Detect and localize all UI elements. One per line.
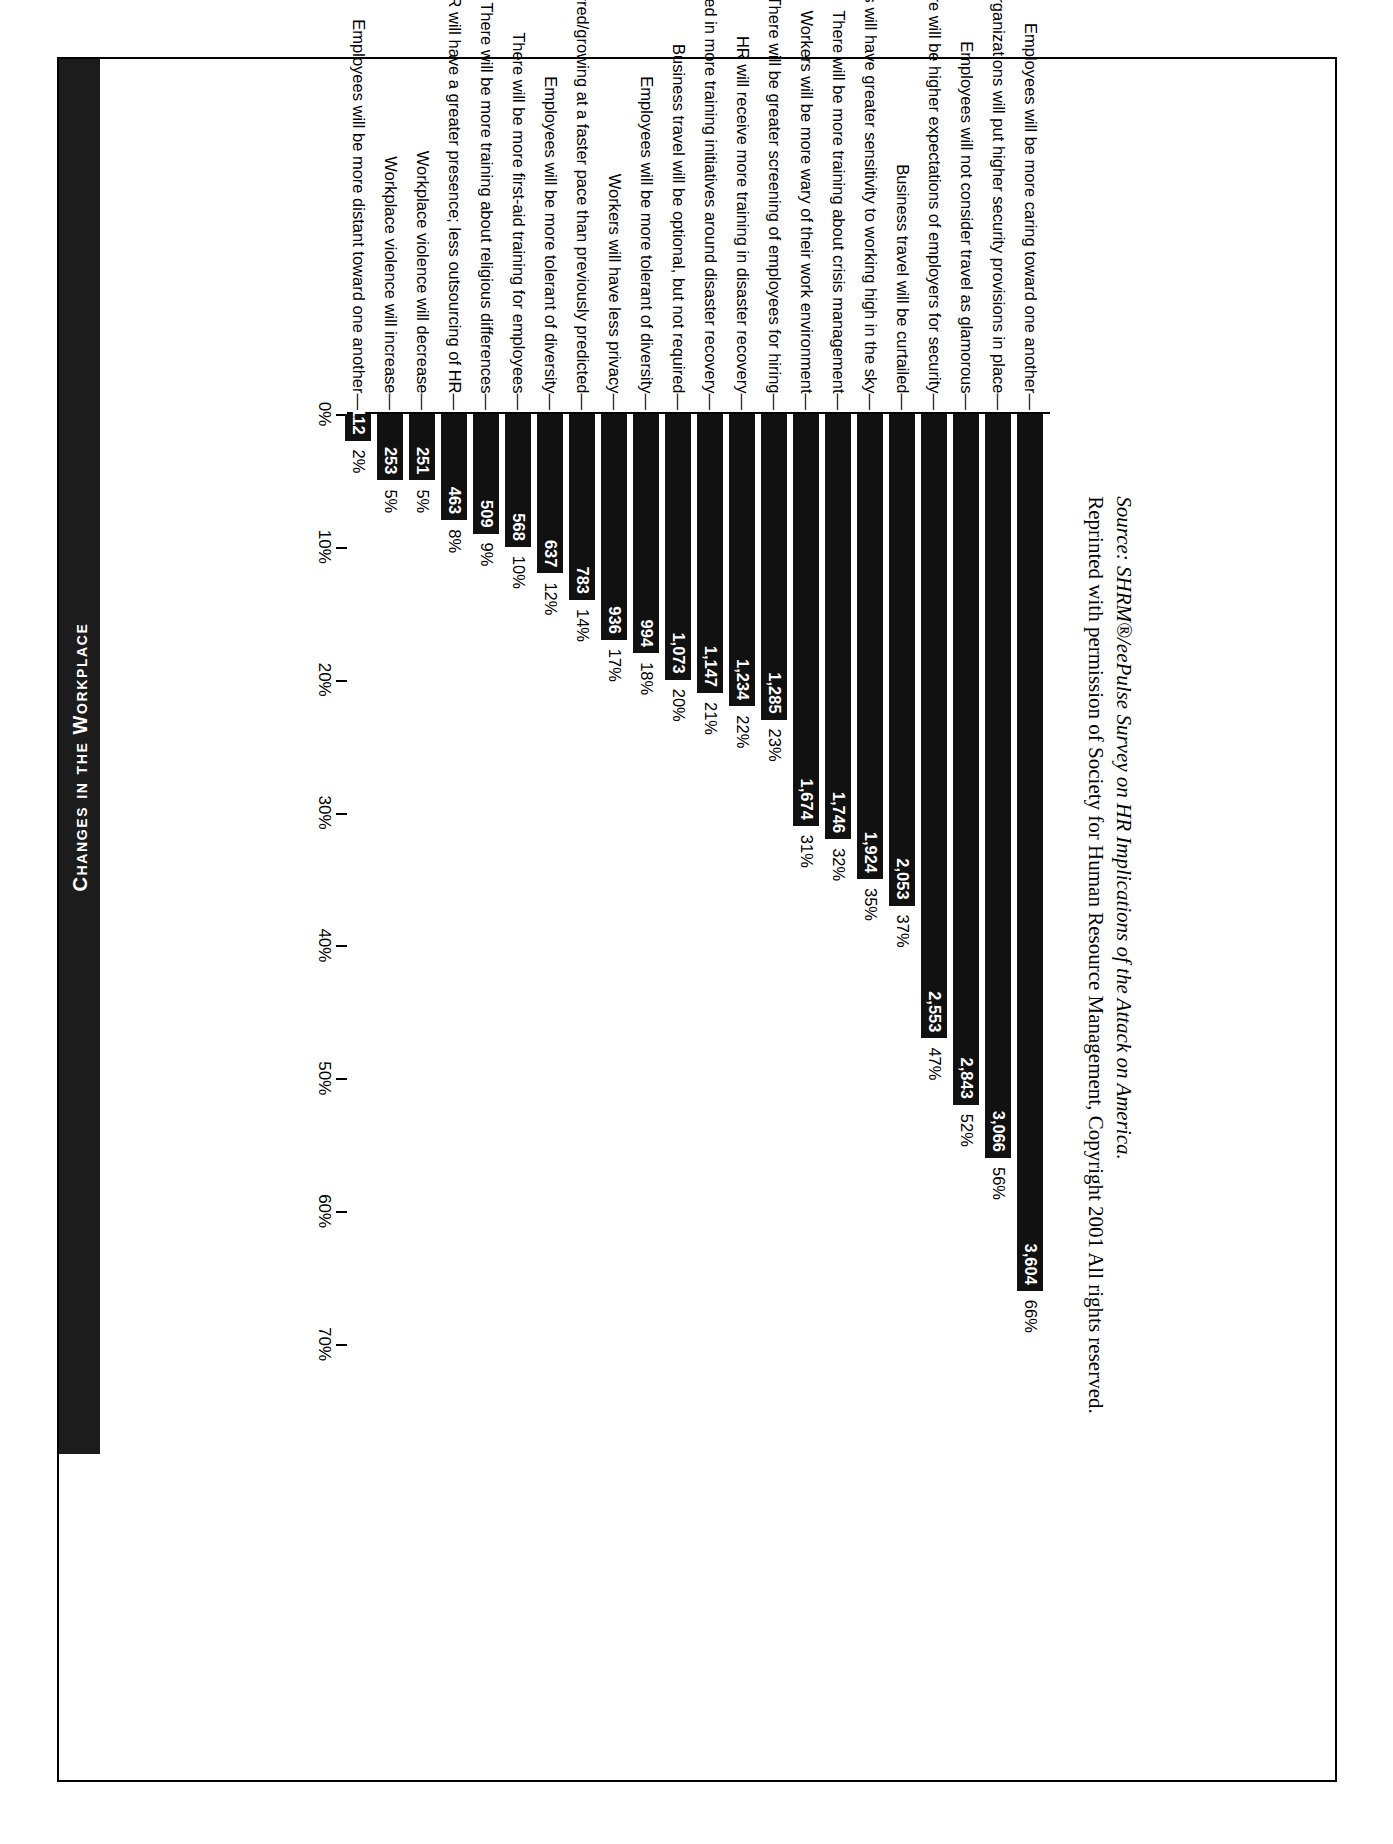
bar-count-label: 637 — [541, 540, 560, 568]
category-label: There will be more first-aid training fo… — [509, 32, 528, 410]
bar-percent-label: 52% — [957, 1114, 976, 1147]
category-label: Workers will have greater sensitivity to… — [861, 0, 880, 410]
axis-tick-label: 10% — [314, 530, 334, 564]
bar: 1,924 — [857, 414, 883, 879]
bar-percent-label: 20% — [669, 689, 688, 722]
bar-count-label: 2,553 — [925, 991, 944, 1032]
bar-percent-label: 21% — [701, 702, 720, 735]
bar-percent-label: 66% — [1021, 1300, 1040, 1333]
category-label: There will be greater screening of emplo… — [765, 0, 784, 410]
bar: 2,843 — [953, 414, 979, 1105]
bar-row: Workers will have greater sensitivity to… — [853, 60, 887, 1455]
category-label: There will be higher expectations of emp… — [925, 0, 944, 410]
category-label: Organizations will put higher security p… — [989, 0, 1008, 410]
bar-percent-label: 2% — [349, 450, 368, 474]
bar-percent-label: 18% — [637, 662, 656, 695]
category-label: Employees will not consider travel as gl… — [957, 41, 976, 410]
bar-row: Workplace violence will decrease—2515% — [405, 60, 439, 1455]
bar-row: Leaders will be involved in more trainin… — [693, 60, 727, 1455]
category-label: Leaders will be involved in more trainin… — [701, 0, 720, 410]
bar: 509 — [473, 414, 499, 534]
bar-row: HR will receive more training in disaste… — [725, 60, 759, 1455]
bar-count-label: 3,066 — [989, 1111, 1008, 1152]
chart-title-bar: Changes in the Workplace — [59, 59, 100, 1454]
bar: 1,674 — [793, 414, 819, 826]
category-label: Employees will be more distant toward on… — [349, 19, 368, 410]
axis-tick-label: 20% — [314, 663, 334, 697]
bar-chart: 0%10%20%30%40%50%60%70% Employees will b… — [105, 60, 1050, 1455]
source-note: Source: SHRM®/eePulse Survey on HR Impli… — [1090, 455, 1130, 1455]
axis-tick-label: 30% — [314, 796, 334, 830]
category-label: Telecommuting preferred/growing at a fas… — [573, 0, 592, 410]
bar-percent-label: 37% — [893, 915, 912, 948]
axis-tick-label: 0% — [314, 402, 334, 427]
category-label: Workers will be more wary of their work … — [797, 11, 816, 410]
bar-row: There will be higher expectations of emp… — [917, 60, 951, 1455]
bar-row: Employees will not consider travel as gl… — [949, 60, 983, 1455]
bar-percent-label: 8% — [445, 529, 464, 553]
category-label: Business travel will be curtailed— — [893, 164, 912, 410]
bar-count-label: 1,674 — [797, 779, 816, 820]
bar-row: There will be greater screening of emplo… — [757, 60, 791, 1455]
bar-percent-label: 23% — [765, 729, 784, 762]
bar: 1,147 — [697, 414, 723, 693]
bar-count-label: 3,604 — [1021, 1244, 1040, 1285]
bar: 2,553 — [921, 414, 947, 1038]
bar-row: There will be more first-aid training fo… — [501, 60, 535, 1455]
axis-tick-label: 70% — [314, 1327, 334, 1361]
bar: 637 — [537, 414, 563, 573]
bar: 1,073 — [665, 414, 691, 680]
bar-row: Business travel will be optional, but no… — [661, 60, 695, 1455]
bar-percent-label: 47% — [925, 1047, 944, 1080]
bar: 253 — [377, 414, 403, 480]
bar-percent-label: 22% — [733, 715, 752, 748]
bar-count-label: 1,746 — [829, 792, 848, 833]
source-line-1: Source: SHRM®/eePulse Survey on HR Impli… — [1110, 496, 1138, 1413]
bar-percent-label: 31% — [797, 835, 816, 868]
category-label: Workplace violence will increase— — [381, 156, 400, 410]
bar-count-label: 2,053 — [893, 858, 912, 899]
bar-row: There will be more training about crisis… — [821, 60, 855, 1455]
chart-plot-area: 0%10%20%30%40%50%60%70% Employees will b… — [105, 60, 1050, 1455]
bar-count-label: 994 — [637, 620, 656, 648]
bar-row: Workplace violence will increase—2535% — [373, 60, 407, 1455]
bar-percent-label: 10% — [509, 556, 528, 589]
bar-percent-label: 5% — [381, 489, 400, 513]
bar-row: Workers will be more wary of their work … — [789, 60, 823, 1455]
bar-count-label: 783 — [573, 566, 592, 594]
bar-percent-label: 32% — [829, 848, 848, 881]
bar: 3,066 — [985, 414, 1011, 1158]
bar-count-label: 1,924 — [861, 832, 880, 873]
axis-tick-label: 60% — [314, 1194, 334, 1228]
category-label: Workers will have less privacy— — [605, 174, 624, 410]
bar-count-label: 568 — [509, 513, 528, 541]
bar-count-label: 253 — [381, 447, 400, 475]
bar-row: Organizations will put higher security p… — [981, 60, 1015, 1455]
bar: 994 — [633, 414, 659, 653]
category-label: There will be more training about crisis… — [829, 10, 848, 410]
bar-count-label: 509 — [477, 500, 496, 528]
bar-row: HR will have a greater presence; less ou… — [437, 60, 471, 1455]
bar-percent-label: 35% — [861, 888, 880, 921]
bar: 2,053 — [889, 414, 915, 906]
bar: 568 — [505, 414, 531, 547]
category-label: Business travel will be optional, but no… — [669, 44, 688, 410]
bar-count-label: 1,234 — [733, 659, 752, 700]
bar-count-label: 463 — [445, 487, 464, 515]
category-label: HR will receive more training in disaste… — [733, 36, 752, 410]
category-label: HR will have a greater presence; less ou… — [445, 0, 464, 410]
bar: 3,604 — [1017, 414, 1043, 1291]
bar-row: Employees will be more tolerant of diver… — [533, 60, 567, 1455]
bar-row: There will be more training about religi… — [469, 60, 503, 1455]
category-label: Employees will be more tolerant of diver… — [637, 76, 656, 410]
bar: 783 — [569, 414, 595, 600]
bar-percent-label: 12% — [541, 582, 560, 615]
bar-percent-label: 17% — [605, 649, 624, 682]
bar: 1,285 — [761, 414, 787, 720]
bar: 1,234 — [729, 414, 755, 706]
bar-count-label: 251 — [413, 447, 432, 475]
bar-count-label: 936 — [605, 606, 624, 634]
bar-row: Employees will be more caring toward one… — [1013, 60, 1047, 1455]
category-label: Workplace violence will decrease— — [413, 151, 432, 410]
bar-row: Workers will have less privacy—93617% — [597, 60, 631, 1455]
